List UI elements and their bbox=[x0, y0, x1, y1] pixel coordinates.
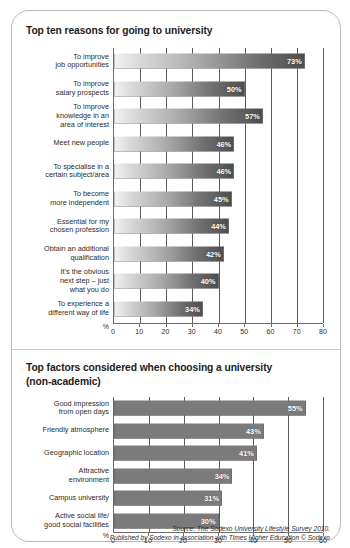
gridline bbox=[323, 442, 324, 465]
bar-value-label: 41% bbox=[239, 449, 257, 458]
bar-value-label: 55% bbox=[288, 404, 306, 413]
bar: 34% bbox=[114, 301, 203, 316]
category-label: Attractive environment bbox=[15, 465, 113, 488]
bar: 55% bbox=[114, 401, 306, 416]
gridline bbox=[297, 213, 298, 241]
chart-row: To experience a different way of life34% bbox=[15, 295, 323, 323]
bar: 50% bbox=[114, 81, 245, 96]
bar: 46% bbox=[114, 136, 234, 151]
chart-row: Essential for my chosen profession44% bbox=[15, 213, 323, 241]
gridline bbox=[288, 465, 289, 488]
bar-value-label: 31% bbox=[204, 494, 222, 503]
gridline bbox=[245, 295, 246, 323]
category-label: To specialise in a certain subject/area bbox=[15, 158, 113, 186]
chart-row: Geographic location41% bbox=[15, 442, 323, 465]
bar-value-label: 57% bbox=[245, 112, 263, 121]
plot-area: 46% bbox=[113, 158, 323, 186]
axis-tick-label: 60 bbox=[267, 328, 275, 335]
gridline bbox=[288, 420, 289, 443]
chart-row: Meet new people46% bbox=[15, 130, 323, 158]
axis-unit-label: % bbox=[15, 532, 113, 546]
axis-tick bbox=[271, 324, 272, 327]
bar: 31% bbox=[114, 491, 222, 506]
gridline bbox=[323, 185, 324, 213]
gridline bbox=[271, 185, 272, 213]
plot-area: 41% bbox=[113, 442, 323, 465]
category-label: Active social life/ good social faciliti… bbox=[15, 510, 113, 533]
gridline bbox=[271, 295, 272, 323]
bar: 34% bbox=[114, 468, 232, 483]
category-label: To improve knowledge in an area of inter… bbox=[15, 103, 113, 131]
bar-value-label: 34% bbox=[215, 471, 233, 480]
bar: 73% bbox=[114, 54, 305, 69]
plot-area: 43% bbox=[113, 420, 323, 443]
gridline bbox=[297, 268, 298, 296]
plot-area: 44% bbox=[113, 213, 323, 241]
bar-value-label: 73% bbox=[287, 57, 305, 66]
axis-unit-label: % bbox=[15, 323, 113, 337]
axis-tick-label: 30 bbox=[188, 328, 196, 335]
plot-area: 50% bbox=[113, 75, 323, 103]
gridline bbox=[271, 130, 272, 158]
chart-row: It's the obvious next step – just what y… bbox=[15, 268, 323, 296]
gridline bbox=[288, 442, 289, 465]
category-label: To become more independent bbox=[15, 185, 113, 213]
axis-tick-label: 10 bbox=[135, 328, 143, 335]
axis-tick bbox=[244, 324, 245, 327]
gridline bbox=[271, 75, 272, 103]
bar: 40% bbox=[114, 274, 219, 289]
bar-value-label: 46% bbox=[216, 139, 234, 148]
category-label: Meet new people bbox=[15, 130, 113, 158]
gridline bbox=[271, 268, 272, 296]
gridline bbox=[297, 295, 298, 323]
gridline bbox=[253, 465, 254, 488]
bar: 57% bbox=[114, 109, 263, 124]
axis-tick bbox=[139, 324, 140, 327]
category-label: Friendly atmosphere bbox=[15, 420, 113, 443]
infographic-page: { "card": { "border_color": "#b9b9b9" },… bbox=[0, 0, 350, 548]
gridline bbox=[323, 48, 324, 76]
plot-area: 46% bbox=[113, 130, 323, 158]
bar: 43% bbox=[114, 423, 264, 438]
category-label: Essential for my chosen profession bbox=[15, 213, 113, 241]
axis-tick-label: 50 bbox=[240, 328, 248, 335]
gridline bbox=[253, 487, 254, 510]
category-label: To improve job opportunities bbox=[15, 48, 113, 76]
gridline bbox=[245, 213, 246, 241]
gridline bbox=[219, 268, 220, 296]
gridline bbox=[288, 487, 289, 510]
chart-row: To improve knowledge in an area of inter… bbox=[15, 103, 323, 131]
chart-row: To specialise in a certain subject/area4… bbox=[15, 158, 323, 186]
gridline bbox=[297, 158, 298, 186]
category-label: It's the obvious next step – just what y… bbox=[15, 268, 113, 296]
gridline bbox=[245, 240, 246, 268]
gridline bbox=[323, 295, 324, 323]
chart-row: To become more independent45% bbox=[15, 185, 323, 213]
panel-factors: Top factors considered when choosing a u… bbox=[11, 349, 341, 546]
gridline bbox=[271, 240, 272, 268]
gridline bbox=[297, 240, 298, 268]
gridline bbox=[323, 158, 324, 186]
axis-line: 01020304050607080 bbox=[113, 323, 323, 337]
bar: 41% bbox=[114, 446, 257, 461]
chart-row: To improve salary prospects50% bbox=[15, 75, 323, 103]
category-label: Good impression from open days bbox=[15, 397, 113, 420]
panel-2-subtitle: (non-academic) bbox=[26, 375, 341, 389]
gridline bbox=[219, 295, 220, 323]
axis-tick bbox=[323, 324, 324, 327]
bar-value-label: 50% bbox=[227, 84, 245, 93]
axis-tick-label: 0 bbox=[111, 328, 115, 335]
category-label: Geographic location bbox=[15, 442, 113, 465]
plot-area: 34% bbox=[113, 465, 323, 488]
gridline bbox=[323, 397, 324, 420]
gridline bbox=[271, 158, 272, 186]
gridline bbox=[297, 75, 298, 103]
chart-row: Campus university31% bbox=[15, 487, 323, 510]
chart-row: Obtain an additional qualification42% bbox=[15, 240, 323, 268]
bar-value-label: 34% bbox=[185, 304, 203, 313]
gridline bbox=[323, 75, 324, 103]
gridline bbox=[323, 487, 324, 510]
bar: 44% bbox=[114, 219, 229, 234]
gridline bbox=[323, 213, 324, 241]
bar: 45% bbox=[114, 191, 232, 206]
